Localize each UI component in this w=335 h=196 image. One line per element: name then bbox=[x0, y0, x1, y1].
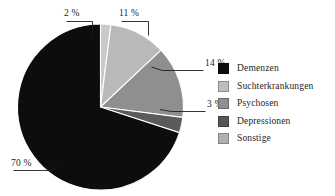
chart-legend: DemenzenSuchterkrankungenPsychosenDepres… bbox=[218, 60, 333, 148]
legend-item-label: Suchterkrankungen bbox=[237, 81, 313, 92]
legend-item: Suchterkrankungen bbox=[218, 78, 333, 96]
pie-chart-figure: 2 % 11 % 14 % 3 % 70 % DemenzenSuchterkr… bbox=[0, 0, 335, 196]
legend-item-label: Sonstige bbox=[237, 133, 271, 144]
pie-slices-group bbox=[18, 24, 184, 190]
legend-item: Psychosen bbox=[218, 95, 333, 113]
callout-sonstige-percent: 2 % bbox=[64, 8, 80, 19]
legend-item: Sonstige bbox=[218, 130, 333, 148]
callout-suchterkrankungen-percent: 11 % bbox=[119, 8, 139, 19]
legend-item: Demenzen bbox=[218, 60, 333, 78]
legend-item: Depressionen bbox=[218, 113, 333, 131]
legend-color-swatch bbox=[218, 81, 229, 92]
legend-color-swatch bbox=[218, 116, 229, 127]
legend-item-label: Depressionen bbox=[237, 116, 291, 127]
legend-item-label: Demenzen bbox=[237, 63, 279, 74]
legend-color-swatch bbox=[218, 63, 229, 74]
callout-demenzen-percent: 70 % bbox=[11, 158, 32, 169]
legend-color-swatch bbox=[218, 98, 229, 109]
legend-item-label: Psychosen bbox=[237, 98, 278, 109]
legend-color-swatch bbox=[218, 133, 229, 144]
